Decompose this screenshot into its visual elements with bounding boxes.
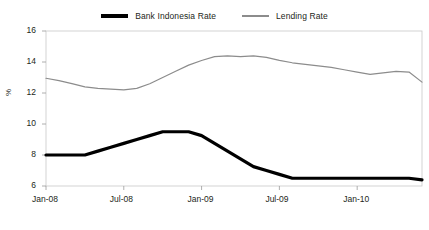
y-tick-label: 10 xyxy=(16,118,36,128)
series-line-lending-rate xyxy=(46,56,422,90)
x-tick-label: Jan-08 xyxy=(32,194,58,204)
y-tick-label: 6 xyxy=(16,180,36,190)
y-tick-label: 14 xyxy=(16,56,36,66)
y-tick-label: 16 xyxy=(16,25,36,35)
y-tick-label: 8 xyxy=(16,149,36,159)
chart-container: Bank Indonesia Rate Lending Rate % 68101… xyxy=(0,0,429,230)
series-line-bank-indonesia-rate xyxy=(46,132,422,180)
x-tick-label: Jul-09 xyxy=(265,194,288,204)
x-tick-label: Jul-08 xyxy=(110,194,133,204)
x-tick-label: Jan-09 xyxy=(188,194,214,204)
y-tick-label: 12 xyxy=(16,87,36,97)
plot-frame xyxy=(46,31,422,186)
x-tick-label: Jan-10 xyxy=(343,194,369,204)
plot-area: % 6810121416 Jan-08Jul-08Jan-09Jul-09Jan… xyxy=(0,0,429,230)
